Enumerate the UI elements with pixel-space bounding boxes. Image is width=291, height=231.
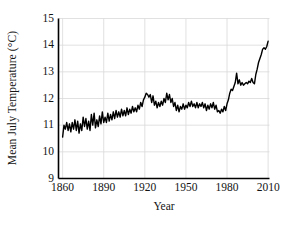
chart-figure: Mean July Temperature (°C) 9101112131415…: [0, 0, 291, 231]
plot-area: [0, 0, 291, 231]
data-series-line: [63, 41, 269, 137]
